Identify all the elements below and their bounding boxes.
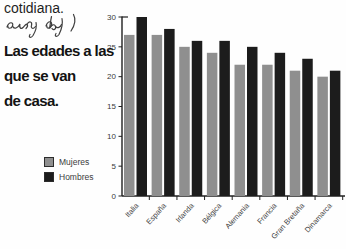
bar-irlanda-mujeres [179,47,190,196]
x-label-francia: Francia [255,201,279,226]
x-label-espa-a: España [144,201,168,227]
bar-dinamarca-hombres [330,71,341,196]
bar-b-lgica-mujeres [207,53,218,196]
x-label-dinamarca: Dinamarca [303,201,335,235]
x-label-b-lgica: Bélgica [200,201,224,226]
bar-alemania-mujeres [235,65,246,196]
bar-italia-mujeres [124,35,135,196]
bar-chart: 051015202530ItaliaEspañaIrlandaBélgicaAl… [0,0,346,249]
y-tick-label: 5 [112,162,117,171]
bar-italia-hombres [137,17,148,196]
y-tick-label: 20 [107,72,116,81]
x-label-alemania: Alemania [223,201,251,231]
y-tick-label: 10 [107,132,116,141]
page: cotidiana. Las edades a las que se van d… [0,0,346,249]
bar-espa-a-mujeres [152,35,163,196]
y-tick-label: 15 [107,102,116,111]
y-tick-label: 0 [112,192,117,201]
x-label-italia: Italia [123,201,141,219]
bar-gran-breta-a-mujeres [290,71,301,196]
bar-alemania-hombres [247,47,258,196]
bar-irlanda-hombres [192,41,203,196]
bar-dinamarca-mujeres [317,77,328,196]
y-tick-label: 25 [107,43,116,52]
bar-gran-breta-a-hombres [302,59,313,196]
bar-espa-a-hombres [164,29,175,196]
bar-francia-hombres [275,53,286,196]
bar-b-lgica-hombres [219,41,230,196]
bar-francia-mujeres [262,65,273,196]
y-tick-label: 30 [107,13,116,22]
x-label-irlanda: Irlanda [174,201,197,225]
